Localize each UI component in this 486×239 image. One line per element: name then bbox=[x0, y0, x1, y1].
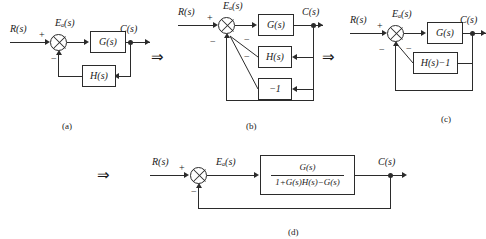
feedback-block-a: H(s) bbox=[82, 65, 116, 87]
transfer-function-fraction: G(s) 1+G(s)H(s)−G(s) bbox=[271, 162, 344, 188]
input-wire-d bbox=[150, 175, 185, 176]
feedback-down-wire-d bbox=[390, 175, 391, 208]
sum-plus-sign-a: + bbox=[39, 30, 45, 40]
error-label-b: Ea(s) bbox=[223, 1, 243, 11]
h-feed-wire-b bbox=[296, 57, 314, 58]
error-label-suffix-a: (s) bbox=[64, 17, 75, 28]
feedback-up-wire-d bbox=[198, 187, 199, 208]
sum-plus-sign-b: + bbox=[207, 13, 213, 23]
input-wire-c bbox=[350, 33, 383, 34]
takeoff-trunk-c bbox=[472, 33, 473, 90]
error-label-c: Ea(s) bbox=[392, 9, 412, 19]
output-label-d: C(s) bbox=[378, 157, 395, 167]
error-wire-a bbox=[67, 42, 85, 43]
reduced-forward-block-d: G(s) 1+G(s)H(s)−G(s) bbox=[260, 155, 355, 195]
panel-caption-a: (a) bbox=[62, 122, 72, 131]
summing-junction-d bbox=[190, 167, 207, 184]
implication-arrow-1: ⇒ bbox=[151, 50, 164, 65]
outer-loop-up-b bbox=[226, 37, 227, 100]
feedback-down-wire-a bbox=[130, 42, 131, 76]
error-arrowhead-a bbox=[84, 39, 89, 45]
forward-block-c: G(s) bbox=[427, 22, 463, 44]
panel-caption-b: (b) bbox=[246, 122, 257, 131]
panel-caption-d: (d) bbox=[288, 228, 299, 237]
sum-minus-sign-a: − bbox=[51, 54, 57, 64]
outer-loop-up-c bbox=[395, 45, 396, 90]
error-wire-d bbox=[207, 175, 255, 176]
output-arrowhead-c bbox=[481, 30, 486, 36]
outer-loop-arrowhead-c bbox=[393, 41, 399, 46]
panel-d: R(s) + − Ea(s) G(s) 1+G(s)H(s)−G(s) C(s)… bbox=[140, 140, 430, 239]
output-wire-d bbox=[355, 175, 405, 176]
feedback-arrowhead-d bbox=[196, 183, 202, 188]
panel-caption-c: (c) bbox=[441, 115, 451, 124]
sum-plus-sign-c: + bbox=[377, 21, 383, 31]
output-label-a: C(s) bbox=[120, 24, 137, 34]
input-label-c: R(s) bbox=[350, 15, 367, 25]
output-arrowhead-a bbox=[145, 39, 150, 45]
feedback-up-wire-a bbox=[58, 54, 59, 76]
feedback-to-h-wire-a bbox=[118, 76, 131, 77]
error-arrowhead-d bbox=[254, 172, 259, 178]
error-label-suffix-d: (s) bbox=[225, 156, 236, 167]
output-arrowhead-d bbox=[402, 172, 407, 178]
input-label-d: R(s) bbox=[152, 157, 169, 167]
implication-arrow-3: ⇒ bbox=[97, 168, 110, 183]
neg-one-feed-wire-b bbox=[296, 89, 314, 90]
error-arrowhead-c bbox=[421, 30, 426, 36]
error-label-suffix-c: (s) bbox=[401, 8, 412, 19]
fraction-numerator: G(s) bbox=[271, 162, 344, 174]
input-label-b: R(s) bbox=[178, 7, 195, 17]
panel-a: R(s) + − Ea(s) G(s) C(s) H(s) (a) bbox=[0, 0, 150, 135]
input-wire-a bbox=[10, 42, 46, 43]
sum-plus-sign-d: + bbox=[179, 163, 185, 173]
forward-block-a: G(s) bbox=[90, 31, 126, 53]
error-wire-c bbox=[404, 33, 422, 34]
fraction-denominator: 1+G(s)H(s)−G(s) bbox=[271, 175, 344, 188]
input-label-a: R(s) bbox=[10, 24, 27, 34]
feedback-return-wire-a bbox=[58, 76, 82, 77]
error-arrowhead-b bbox=[252, 22, 257, 28]
error-label-d: Ea(s) bbox=[216, 157, 236, 167]
outer-loop-arrowhead-b bbox=[224, 33, 230, 38]
feedback-arrowhead-a bbox=[56, 50, 62, 55]
error-label-suffix-b: (s) bbox=[232, 0, 243, 11]
sum-minus-sign-1-b: − bbox=[210, 37, 216, 47]
summing-junction-a bbox=[50, 34, 67, 51]
output-arrowhead-b bbox=[318, 22, 323, 28]
sum-minus-sign-d: − bbox=[191, 187, 197, 197]
panel-c: R(s) + − − Ea(s) G(s) C(s) H(s)−1 (c) bbox=[340, 0, 486, 135]
input-wire-b bbox=[178, 25, 214, 26]
outer-loop-bottom-c bbox=[395, 90, 473, 91]
feedback-bottom-wire-d bbox=[198, 208, 391, 209]
panel-b: R(s) + − Ea(s) G(s) C(s) H(s) − − −1 (b) bbox=[178, 0, 323, 135]
outer-loop-bottom-b bbox=[226, 100, 314, 101]
error-label-a: Ea(s) bbox=[55, 18, 75, 28]
neg-one-feed-arrowhead-b bbox=[292, 86, 297, 92]
implication-arrow-2: ⇒ bbox=[322, 50, 335, 65]
error-wire-b bbox=[235, 25, 253, 26]
output-label-c: C(s) bbox=[460, 15, 477, 25]
h-feed-arrowhead-b bbox=[292, 54, 297, 60]
sum-minus-sign-1-c: − bbox=[379, 45, 385, 55]
hminus1-feed-wire-c bbox=[457, 63, 473, 64]
output-label-b: C(s) bbox=[302, 7, 319, 17]
neg-one-return-line-b bbox=[224, 30, 264, 94]
